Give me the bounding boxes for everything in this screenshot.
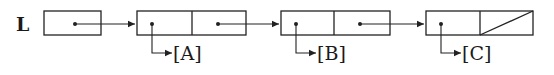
list-node-1 (137, 11, 279, 53)
head-pointer-box (44, 11, 135, 35)
node-2-value: [B] (317, 42, 346, 64)
node-3-value: [C] (462, 42, 491, 64)
value-arrow (296, 24, 316, 53)
value-arrow (441, 24, 461, 53)
list-node-2 (281, 11, 424, 53)
head-label: L (16, 13, 29, 35)
value-arrow (152, 24, 172, 53)
linked-list-diagram: L [A] [B] [C] (0, 0, 554, 75)
node-1-value: [A] (173, 42, 202, 64)
null-slash-icon (480, 11, 533, 35)
